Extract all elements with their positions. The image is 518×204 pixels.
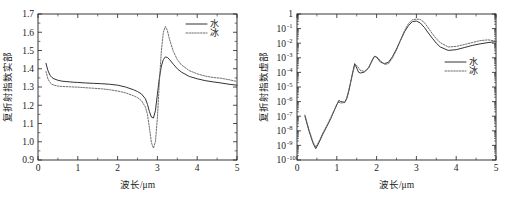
x-tick-label: 1 xyxy=(334,163,339,173)
y-axis-label: 复折射指数实部 xyxy=(2,52,13,122)
x-axis-label: 波长/μm xyxy=(379,179,415,190)
x-tick-label: 5 xyxy=(235,163,240,173)
y-tick-label: 10-7 xyxy=(277,110,294,122)
y-tick-label: 10-8 xyxy=(277,124,293,136)
y-tick-label: 10-6 xyxy=(277,95,294,107)
y-tick-label: 10-4 xyxy=(277,66,294,78)
legend-label: 冰 xyxy=(210,27,219,38)
y-tick-label: 10-10 xyxy=(277,154,296,166)
y-tick-label: 1.3 xyxy=(22,82,34,92)
y-tick-label: 1.0 xyxy=(22,137,34,147)
y-tick-label: 1.4 xyxy=(22,64,34,74)
svg-text:10: 10 xyxy=(277,82,287,92)
svg-text:-6: -6 xyxy=(287,95,293,102)
svg-text:1: 1 xyxy=(288,9,293,19)
svg-text:-8: -8 xyxy=(287,124,292,131)
svg-text:10: 10 xyxy=(277,53,287,63)
y-tick-label: 10-5 xyxy=(277,81,293,93)
svg-text:-4: -4 xyxy=(287,66,293,73)
svg-text:10: 10 xyxy=(277,112,287,122)
svg-text:-9: -9 xyxy=(287,139,292,146)
y-tick-label: 10-3 xyxy=(277,51,293,63)
x-tick-label: 4 xyxy=(195,163,200,173)
x-tick-label: 4 xyxy=(454,163,459,173)
series-line-water xyxy=(46,57,237,118)
series-line-ice xyxy=(305,19,496,147)
svg-text:10: 10 xyxy=(277,155,287,165)
svg-text:10: 10 xyxy=(277,126,287,136)
figure-refractive-index: 0.91.01.11.21.31.41.51.61.7012345波长/μm复折… xyxy=(0,0,518,204)
y-tick-label: 1 xyxy=(288,9,293,19)
plot-frame xyxy=(297,14,496,160)
y-tick-label: 1.6 xyxy=(22,28,34,38)
x-tick-label: 0 xyxy=(36,163,41,173)
x-tick-label: 3 xyxy=(155,163,160,173)
svg-text:-5: -5 xyxy=(287,81,292,88)
svg-text:-7: -7 xyxy=(287,110,293,117)
chart-panel-imaginary-part: 110-110-210-310-410-510-610-710-810-910-… xyxy=(259,0,518,204)
svg-text:-1: -1 xyxy=(287,22,292,29)
series-line-ice xyxy=(46,26,237,148)
x-tick-label: 1 xyxy=(75,163,80,173)
y-tick-label: 1.7 xyxy=(22,9,34,19)
y-tick-label: 1.2 xyxy=(22,101,34,111)
x-axis-label: 波长/μm xyxy=(120,179,156,190)
chart-panel-real-part: 0.91.01.11.21.31.41.51.61.7012345波长/μm复折… xyxy=(0,0,259,204)
y-tick-label: 10-9 xyxy=(277,139,293,151)
y-tick-label: 1.1 xyxy=(22,119,34,129)
svg-text:10: 10 xyxy=(277,97,287,107)
svg-text:10: 10 xyxy=(277,68,287,78)
svg-text:-10: -10 xyxy=(287,154,296,161)
x-tick-label: 0 xyxy=(295,163,300,173)
svg-text:10: 10 xyxy=(277,141,287,151)
y-tick-label: 0.9 xyxy=(22,155,34,165)
legend-label: 冰 xyxy=(469,65,478,76)
x-tick-label: 3 xyxy=(414,163,419,173)
y-tick-label: 1.5 xyxy=(22,46,34,56)
svg-text:10: 10 xyxy=(277,24,287,34)
x-tick-label: 2 xyxy=(374,163,379,173)
y-tick-label: 10-2 xyxy=(277,37,293,49)
svg-text:-2: -2 xyxy=(287,37,292,44)
svg-text:10: 10 xyxy=(277,39,287,49)
x-tick-label: 5 xyxy=(494,163,499,173)
y-tick-label: 10-1 xyxy=(277,22,293,34)
svg-text:-3: -3 xyxy=(287,51,292,58)
x-tick-label: 2 xyxy=(115,163,120,173)
y-axis-label: 复折射指数虚部 xyxy=(259,52,269,122)
